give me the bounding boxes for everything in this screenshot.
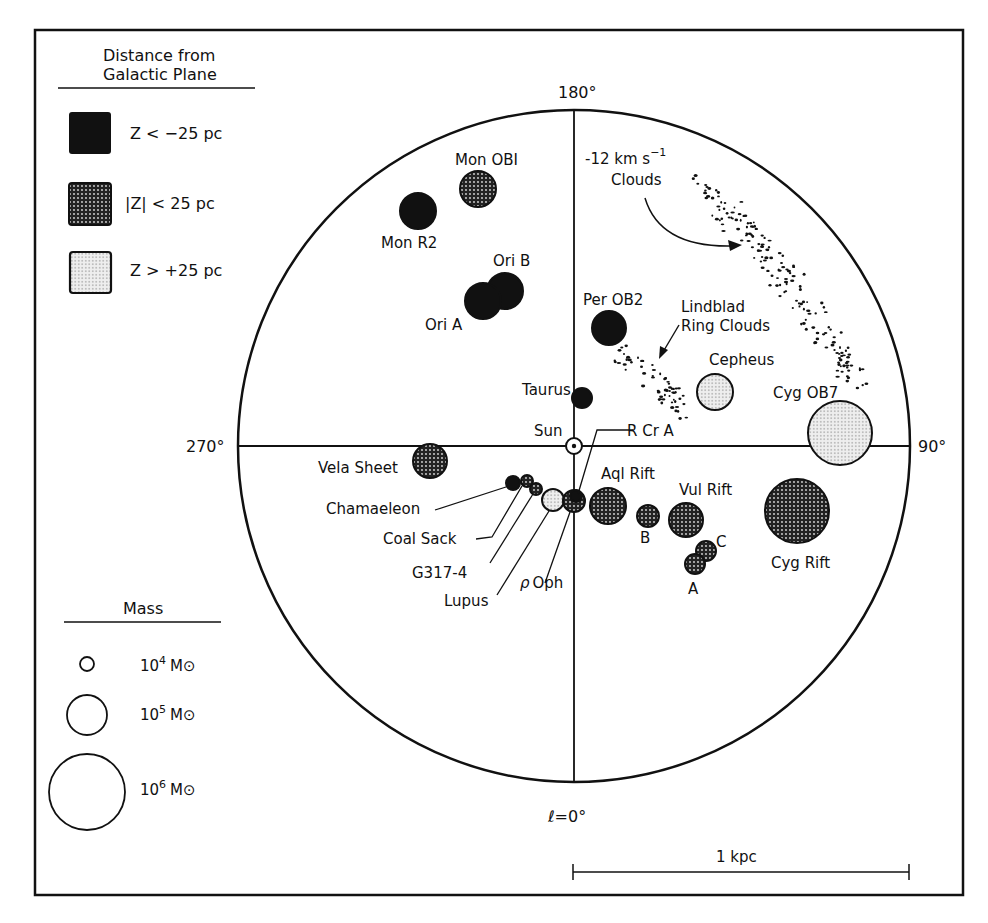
label-mon-r2: Mon R2: [381, 234, 437, 252]
label-mon-ob1: Mon OBI: [455, 151, 518, 169]
cloud-cyg-rift: [765, 479, 829, 543]
legend-distance: Distance from Galactic Plane Z < −25 pc …: [58, 46, 255, 293]
label-vul-rift: Vul Rift: [679, 481, 732, 499]
label-cyg-ob7: Cyg OB7: [773, 384, 838, 402]
cloud-chamaeleon: [506, 476, 520, 490]
scale-bar: 1 kpc: [573, 848, 909, 880]
sun-marker: [566, 438, 582, 454]
label-rho-oph: ρOph: [520, 574, 563, 592]
scale-bar-label: 1 kpc: [716, 848, 757, 866]
label-c: C: [716, 533, 726, 551]
cloud-cyg-ob7: [808, 401, 872, 465]
cloud-per-ob2: [592, 311, 626, 345]
label-r-cr-a: R Cr A: [627, 422, 675, 440]
legend-mass: Mass 104M⊙ 105M⊙ 106M⊙: [49, 599, 221, 830]
velocity-clouds-label-2: Clouds: [611, 171, 662, 189]
mass-label-1e6: 106M⊙: [140, 778, 196, 799]
legend-item-2-label: |Z| < 25 pc: [125, 194, 215, 213]
axis-label-top: 180°: [558, 83, 597, 102]
label-coal-sack: Coal Sack: [383, 530, 457, 548]
lindblad-label-2: Ring Clouds: [681, 317, 770, 335]
axis-label-left: 270°: [186, 437, 225, 456]
cloud-vela-sheet: [413, 444, 447, 478]
label-vela-sheet: Vela Sheet: [318, 459, 398, 477]
label-aql-rift: Aql Rift: [601, 465, 655, 483]
axis-label-right: 90°: [918, 437, 946, 456]
mass-circle-1e6: [49, 754, 125, 830]
label-cepheus: Cepheus: [709, 351, 774, 369]
legend-swatch-solid: [69, 112, 111, 154]
mass-label-1e4: 104M⊙: [140, 654, 196, 675]
legend-mass-title: Mass: [123, 599, 163, 618]
label-cyg-rift: Cyg Rift: [771, 554, 830, 572]
velocity-clouds-label: -12 km s−1: [585, 146, 666, 168]
legend-item-1-label: Z < −25 pc: [130, 124, 222, 143]
velocity-clouds-arrow: [645, 198, 733, 246]
cloud-taurus: [572, 388, 592, 408]
label-sun: Sun: [534, 422, 563, 440]
galactic-cloud-map: 180° 270° 90° ℓ=0° 1 kpc Distance from G…: [0, 0, 988, 923]
legend-distance-title-2: Galactic Plane: [103, 65, 217, 84]
label-ori-b: Ori B: [493, 252, 530, 270]
label-a: A: [688, 580, 699, 598]
label-lupus: Lupus: [444, 592, 489, 610]
legend-swatch-light: [70, 252, 111, 293]
arrowhead-icon: [728, 240, 742, 251]
label-chamaeleon: Chamaeleon: [326, 500, 420, 518]
label-ori-a: Ori A: [425, 316, 463, 334]
cloud-g317-4: [530, 483, 542, 495]
cloud-vul-rift: [669, 503, 703, 537]
cloud-markers: [400, 171, 872, 574]
lindblad-label-1: Lindblad: [681, 298, 745, 316]
mass-circle-1e4: [80, 657, 94, 671]
cloud-mon-ob1: [460, 171, 496, 207]
label-taurus: Taurus: [521, 381, 571, 399]
cloud-aql-rift: [590, 488, 626, 524]
label-b: B: [640, 529, 650, 547]
legend-item-3-label: Z > +25 pc: [130, 261, 222, 280]
arrowhead-icon: [659, 346, 668, 359]
legend-distance-title-1: Distance from: [103, 46, 215, 65]
cloud-a: [685, 554, 705, 574]
cloud-r-cr-a: [570, 490, 582, 502]
mass-circle-1e5: [67, 695, 107, 735]
label-per-ob2: Per OB2: [583, 291, 643, 309]
cloud-mon-r2: [400, 193, 436, 229]
axis-label-bottom: ℓ=0°: [547, 807, 586, 826]
lindblad-cloud-band: [614, 344, 689, 420]
label-g317-4: G317-4: [412, 564, 467, 582]
cloud-lupus: [542, 489, 564, 511]
legend-swatch-dense: [69, 183, 111, 225]
cloud-ori-a: [465, 283, 501, 319]
cloud-b: [637, 505, 659, 527]
mass-label-1e5: 105M⊙: [140, 703, 196, 724]
cloud-cepheus: [697, 374, 733, 410]
